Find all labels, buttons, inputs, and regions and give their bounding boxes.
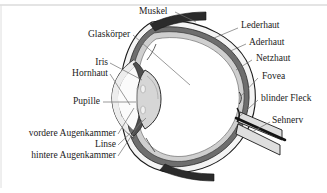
label-linse: Linse bbox=[8, 140, 116, 150]
label-pupille: Pupille bbox=[40, 97, 100, 107]
label-hintere-augenkammer: hintere Augenkammer bbox=[8, 151, 116, 161]
label-glaskoerper: Glaskörper bbox=[88, 30, 130, 40]
label-vordere-augenkammer: vordere Augenkammer bbox=[8, 129, 116, 139]
label-aderhaut: Aderhaut bbox=[249, 38, 284, 48]
label-netzhaut: Netzhaut bbox=[256, 54, 290, 64]
eye-anatomy-figure: Muskel Glaskörper Iris Hornhaut Pupille … bbox=[0, 0, 327, 193]
label-blinder-fleck: blinder Fleck bbox=[261, 94, 311, 104]
posterior-chamber-superior bbox=[141, 85, 146, 93]
label-iris: Iris bbox=[62, 58, 108, 68]
label-lederhaut: Lederhaut bbox=[241, 21, 280, 31]
label-hornhaut: Hornhaut bbox=[40, 69, 108, 79]
posterior-chamber-inferior bbox=[141, 106, 146, 114]
label-fovea: Fovea bbox=[262, 72, 285, 82]
label-sehnerv: Sehnerv bbox=[272, 116, 303, 126]
label-muskel: Muskel bbox=[139, 7, 168, 17]
